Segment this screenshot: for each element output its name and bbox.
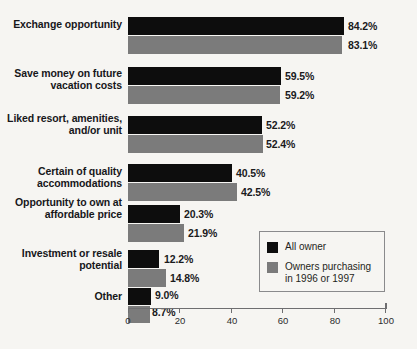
bar-all-owner bbox=[128, 288, 151, 305]
bar-value-label: 84.2% bbox=[348, 20, 377, 32]
legend-entry-recent-owner: Owners purchasing in 1996 or 1997 bbox=[267, 261, 371, 285]
x-axis-tick bbox=[128, 308, 129, 313]
bar-value-label: 59.2% bbox=[285, 89, 314, 101]
bar-value-label: 59.5% bbox=[285, 70, 314, 82]
category-label: Investment or resale potential bbox=[4, 247, 128, 271]
legend-entry-all-owner: All owner bbox=[267, 241, 326, 253]
category-label: Opportunity to own at affordable price bbox=[4, 196, 128, 220]
x-axis-line bbox=[128, 308, 386, 309]
bar-value-label: 52.4% bbox=[266, 138, 295, 150]
bar-chart: Exchange opportunity Save money on futur… bbox=[0, 0, 417, 349]
chart-legend: All owner Owners purchasing in 1996 or 1… bbox=[259, 231, 385, 292]
bar-value-label: 9.0% bbox=[155, 289, 179, 301]
x-axis-tick-label: 100 bbox=[378, 315, 394, 326]
x-axis-tick bbox=[334, 308, 335, 313]
bar-value-label: 40.5% bbox=[236, 167, 265, 179]
bar-value-label: 20.3% bbox=[184, 208, 213, 220]
x-axis-tick bbox=[385, 308, 386, 313]
bar-value-label: 52.2% bbox=[266, 119, 295, 131]
x-axis-tick-label: 60 bbox=[278, 315, 289, 326]
legend-label: All owner bbox=[285, 241, 326, 253]
legend-label: Owners purchasing in 1996 or 1997 bbox=[285, 261, 371, 285]
category-label: Liked resort, amenities, and/or unit bbox=[4, 112, 128, 136]
x-axis-tick-label: 0 bbox=[125, 315, 130, 326]
category-label: Certain of quality accommodations bbox=[4, 165, 128, 189]
x-axis-tick-label: 80 bbox=[330, 315, 341, 326]
legend-swatch-icon bbox=[267, 262, 278, 273]
bar-value-label: 14.8% bbox=[170, 272, 199, 284]
bar-value-label: 42.5% bbox=[241, 186, 270, 198]
category-label: Other bbox=[4, 290, 128, 302]
x-axis-tick-label: 40 bbox=[227, 315, 238, 326]
x-axis-tick bbox=[231, 308, 232, 313]
bar-value-label: 21.9% bbox=[188, 227, 217, 239]
x-axis-tick bbox=[282, 308, 283, 313]
legend-swatch-icon bbox=[267, 242, 278, 253]
category-label: Exchange opportunity bbox=[4, 18, 128, 30]
bar-value-label: 12.2% bbox=[164, 253, 193, 265]
category-label: Save money on future vacation costs bbox=[4, 67, 128, 91]
bar-value-label: 83.1% bbox=[348, 39, 377, 51]
x-axis-tick bbox=[179, 308, 180, 313]
x-axis-tick-label: 20 bbox=[175, 315, 186, 326]
